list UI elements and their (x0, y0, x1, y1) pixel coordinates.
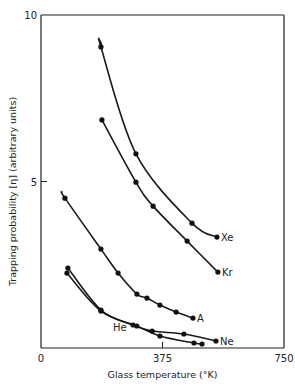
x-axis-label: Glass temperature (°K) (108, 369, 218, 380)
data-point-a (157, 302, 162, 307)
data-point-xe (98, 44, 103, 49)
data-point-xe (214, 235, 219, 240)
curve-kr (102, 120, 218, 272)
data-point-ne (181, 331, 186, 336)
chart: 0375750 510 XeKrANeHe Glass temperature … (0, 0, 295, 387)
data-point-ne (65, 265, 70, 270)
data-point-he (98, 308, 103, 313)
x-ticks: 0375750 (38, 342, 294, 364)
curve-a (61, 191, 193, 318)
x-tick-label: 750 (274, 353, 293, 364)
y-tick-label: 10 (24, 10, 37, 21)
series-label-kr: Kr (222, 267, 234, 278)
data-point-a (190, 315, 195, 320)
x-tick-label: 375 (153, 353, 172, 364)
data-point-kr (151, 204, 156, 209)
data-point-a (62, 196, 67, 201)
data-point-kr (133, 180, 138, 185)
series-label-ne: Ne (220, 336, 234, 347)
data-point-a (174, 309, 179, 314)
series-curves (61, 38, 218, 344)
data-point-he (191, 340, 196, 345)
data-point-ne (150, 328, 155, 333)
series-labels: XeKrANeHe (113, 232, 234, 347)
data-point-kr (99, 117, 104, 122)
data-point-he (64, 270, 69, 275)
curve-ne (68, 268, 216, 341)
data-point-a (144, 295, 149, 300)
data-point-a (116, 270, 121, 275)
data-point-he (157, 333, 162, 338)
series-label-a: A (197, 313, 204, 324)
plot-frame (41, 15, 284, 348)
y-axis-label: Trapping probability [η] (arbitrary unit… (7, 97, 18, 287)
data-point-a (98, 246, 103, 251)
data-point-he (199, 341, 204, 346)
x-tick-label: 0 (38, 353, 44, 364)
curve-xe (99, 38, 217, 237)
data-point-he (134, 323, 139, 328)
data-point-kr (215, 269, 220, 274)
data-point-a (134, 291, 139, 296)
series-points (62, 44, 220, 346)
data-point-xe (189, 221, 194, 226)
y-ticks: 510 (24, 10, 47, 188)
series-label-xe: Xe (221, 232, 234, 243)
data-point-ne (213, 338, 218, 343)
series-label-he: He (113, 322, 127, 333)
y-tick-label: 5 (31, 177, 37, 188)
data-point-xe (133, 151, 138, 156)
data-point-kr (185, 239, 190, 244)
